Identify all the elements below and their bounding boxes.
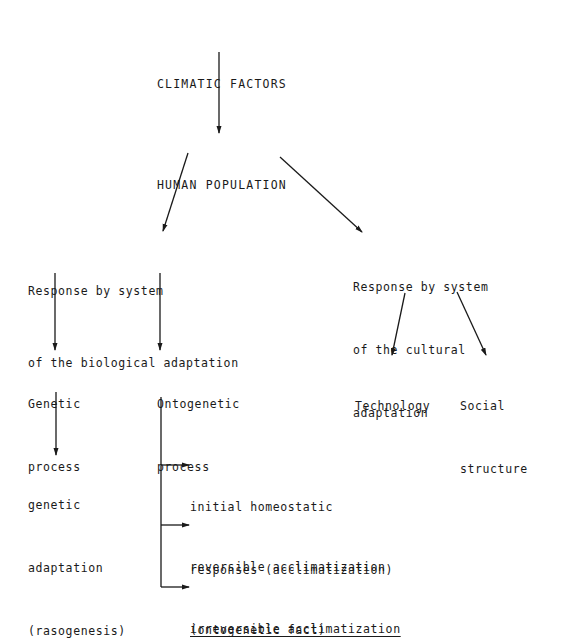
node-line: Social xyxy=(460,396,528,417)
node-genetic-adaptation: genetic adaptation (rasogenesis) xyxy=(28,453,126,641)
node-line: Ontogenetic xyxy=(157,394,240,415)
node-technology: Technology xyxy=(355,354,430,438)
node-line: CLIMATIC FACTORS xyxy=(157,74,287,95)
node-line: Response by system xyxy=(28,279,239,303)
node-line: (rasogenesis) xyxy=(28,621,126,641)
node-irreversible-acclimatization: irreversible acclimatization (adaptabili… xyxy=(190,577,401,641)
edge-human-to-cultural xyxy=(280,157,362,232)
node-line: genetic xyxy=(28,495,126,516)
node-climatic-factors: CLIMATIC FACTORS xyxy=(157,32,287,116)
node-line: irreversible acclimatization xyxy=(190,619,401,640)
node-line: adaptation xyxy=(28,558,126,579)
node-line: Technology xyxy=(355,396,430,417)
node-line: Response by system xyxy=(353,277,488,298)
node-line: HUMAN POPULATION xyxy=(157,175,287,196)
node-social-structure: Social structure xyxy=(460,354,528,501)
node-line: structure xyxy=(460,459,528,480)
node-human-population: HUMAN POPULATION xyxy=(157,133,287,217)
node-line: reversible acclimatization xyxy=(190,557,386,578)
node-line: Genetic xyxy=(28,394,81,415)
